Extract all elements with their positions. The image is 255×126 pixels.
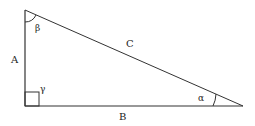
side-c-label: C xyxy=(126,38,134,49)
beta-label: β xyxy=(35,23,40,33)
beta-arc xyxy=(25,15,36,22)
right-angle-marker xyxy=(25,92,39,106)
side-b-label: B xyxy=(119,111,126,122)
side-c-line xyxy=(25,10,243,106)
right-triangle-diagram: A B C β γ α xyxy=(0,0,255,126)
alpha-arc xyxy=(213,94,216,106)
gamma-label: γ xyxy=(40,84,45,94)
alpha-label: α xyxy=(198,93,204,103)
side-a-label: A xyxy=(10,54,19,65)
